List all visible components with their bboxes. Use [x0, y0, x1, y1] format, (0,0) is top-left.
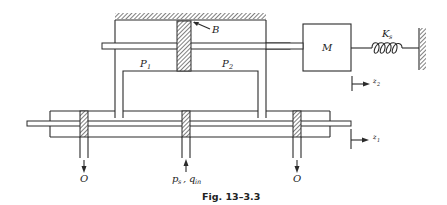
- label-p1-sub: 1: [147, 63, 151, 71]
- port-right: [293, 137, 301, 158]
- label-z1-sub: 1: [377, 137, 380, 143]
- figure-caption: Fig. 13–3.3: [202, 191, 260, 202]
- label-outlet-right: O: [293, 173, 301, 184]
- label-p1: P: [139, 58, 147, 69]
- top-ground-hatch: [115, 13, 266, 19]
- label-p2: P: [221, 58, 229, 69]
- spool-land-right: [293, 111, 301, 137]
- label-qin-sub: in: [195, 178, 201, 186]
- label-mass: M: [321, 42, 333, 53]
- outlet-right-arrow-head: [295, 166, 300, 173]
- label-z2-sub: 2: [376, 81, 380, 87]
- label-p2-sub: 2: [228, 63, 233, 71]
- spool-land-center: [182, 111, 190, 137]
- label-ks-sub: s: [389, 33, 393, 41]
- spool-land-left: [80, 111, 88, 137]
- port-left: [80, 137, 88, 158]
- label-outlet-left: O: [80, 173, 88, 184]
- rod-to-mass: [266, 43, 303, 49]
- z1-arrow-head: [362, 138, 369, 143]
- label-ps-sub: s: [178, 178, 182, 186]
- right-wall-hatch: [420, 28, 426, 70]
- piston-rod: [102, 43, 290, 49]
- label-sep: ,: [183, 173, 186, 184]
- label-b: B: [211, 24, 219, 35]
- spring-coil: [372, 43, 402, 54]
- z2-arrow-head: [363, 82, 370, 87]
- outlet-left-arrow-head: [82, 166, 87, 173]
- piston-b: [177, 21, 191, 71]
- hydraulic-servo-diagram: B P 1 P 2 M K s z 2 O p s , q in O: [0, 0, 447, 205]
- port-center: [182, 137, 190, 158]
- supply-arrow-head: [184, 159, 189, 166]
